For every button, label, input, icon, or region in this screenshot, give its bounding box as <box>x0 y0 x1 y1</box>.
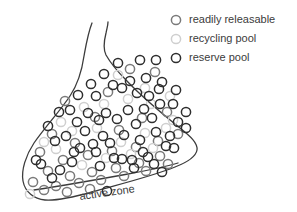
vesicle-pool-diagram: active zone readily releasablerecycling … <box>0 0 297 212</box>
vesicle-circle-icon <box>113 58 122 67</box>
vesicle-circle-icon <box>181 107 190 116</box>
legend-item-label: recycling pool <box>189 32 256 44</box>
vesicle-circle-icon <box>125 64 134 73</box>
vesicle-circle-icon <box>181 123 190 132</box>
diagram-canvas: active zone readily releasablerecycling … <box>0 0 297 212</box>
vesicle-circle-icon <box>135 55 144 64</box>
legend-item-reserve-pool[interactable]: reserve pool <box>171 51 249 63</box>
vesicle-circle-icon <box>155 99 164 108</box>
open-circle-icon <box>171 34 180 43</box>
vesicle-circle-icon <box>168 99 177 108</box>
legend-item-recycling-pool[interactable]: recycling pool <box>171 32 256 44</box>
legend-item-label: reserve pool <box>189 51 250 63</box>
vesicle-circle-icon <box>162 107 171 116</box>
legend: readily releasablerecycling poolreserve … <box>171 13 275 63</box>
vesicle-circle-icon <box>141 73 150 82</box>
vesicle-circle-icon <box>150 67 159 76</box>
legend-item-label: readily releasable <box>189 13 275 25</box>
vesicle-circle-icon <box>151 55 160 64</box>
open-circle-icon <box>171 53 180 62</box>
open-circle-icon <box>171 15 180 24</box>
legend-item-readily-releasable[interactable]: readily releasable <box>171 13 275 25</box>
vesicle-circle-icon <box>171 85 180 94</box>
